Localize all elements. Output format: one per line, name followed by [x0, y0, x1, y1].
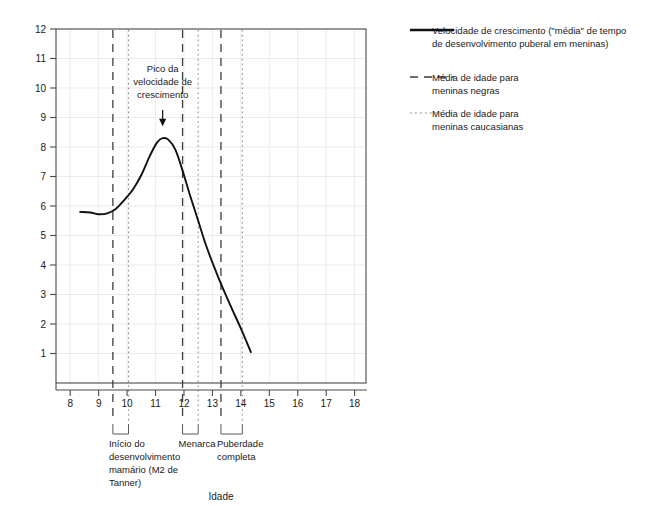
y-tick-label: 8 — [40, 142, 46, 153]
x-tick-label: 15 — [264, 398, 276, 409]
y-tick-label: 10 — [35, 83, 47, 94]
x-tick-label: 14 — [235, 398, 247, 409]
growth-velocity-curve — [80, 138, 251, 352]
y-tick-label: 11 — [36, 53, 47, 64]
growth-velocity-figure: Pico davelocidade decrescimento 12345678… — [0, 0, 646, 506]
stage-bracket-caption: mamário (M2 de — [109, 464, 178, 475]
y-tick-label: 3 — [40, 289, 46, 300]
y-tick-label: 4 — [40, 260, 46, 271]
stage-brackets: Início dodesenvolvimentomamário (M2 deTa… — [109, 424, 264, 488]
x-tick-label: 17 — [321, 398, 333, 409]
stage-bracket-puberdade-completa — [221, 424, 242, 434]
stage-bracket-caption: Puberdade — [217, 438, 263, 449]
legend-black-girls-label: meninas negras — [432, 85, 500, 96]
x-tick-label: 16 — [292, 398, 304, 409]
y-tick-label: 9 — [40, 112, 46, 123]
x-axis-title: Idade — [208, 491, 233, 502]
legend-growth-velocity-label: de desenvolvimento puberal em meninas) — [432, 38, 608, 49]
chart-legend: Velocidade de crescimento ("média" de te… — [410, 25, 626, 132]
y-tick-label: 1 — [40, 348, 46, 359]
x-axis: 89101112131415161718 — [56, 383, 367, 409]
peak-annotation-line: Pico da — [147, 63, 179, 74]
x-tick-label: 18 — [349, 398, 361, 409]
gridlines — [56, 29, 366, 383]
stage-bracket-caption: completa — [217, 451, 256, 462]
y-tick-label: 5 — [40, 230, 46, 241]
stage-bracket-inicio-desenvolvimento-mamario — [113, 424, 129, 434]
legend-black-girls-label: Média de idade para — [432, 72, 519, 83]
stage-bracket-caption: Menarca — [179, 438, 217, 449]
peak-annotation-line: velocidade de — [133, 76, 192, 87]
y-axis: 123456789101112 — [35, 24, 56, 360]
x-tick-label: 8 — [67, 398, 73, 409]
y-tick-label: 12 — [35, 24, 47, 35]
y-tick-label: 6 — [40, 201, 46, 212]
series-line — [80, 138, 251, 352]
y-tick-label: 2 — [40, 319, 46, 330]
stage-bracket-menarca — [183, 424, 199, 434]
chart-canvas: Pico davelocidade decrescimento 12345678… — [0, 0, 646, 506]
stage-bracket-caption: Início do — [109, 438, 145, 449]
x-tick-label: 11 — [150, 398, 161, 409]
x-tick-label: 13 — [207, 398, 219, 409]
y-tick-label: 7 — [40, 171, 46, 182]
x-tick-label: 10 — [122, 398, 134, 409]
peak-annotation-line: crescimento — [137, 89, 188, 100]
x-tick-label: 9 — [96, 398, 102, 409]
peak-arrow-head — [159, 119, 166, 127]
x-axis-title-text: Idade — [208, 491, 233, 502]
stage-bracket-caption: desenvolvimento — [109, 451, 180, 462]
legend-growth-velocity-label: Velocidade de crescimento ("média" de te… — [432, 25, 626, 36]
x-tick-label: 12 — [178, 398, 190, 409]
stage-bracket-caption: Tanner) — [109, 477, 141, 488]
legend-caucasian-girls-label: meninas caucasianas — [432, 121, 524, 132]
legend-caucasian-girls-label: Média de idade para — [432, 108, 519, 119]
